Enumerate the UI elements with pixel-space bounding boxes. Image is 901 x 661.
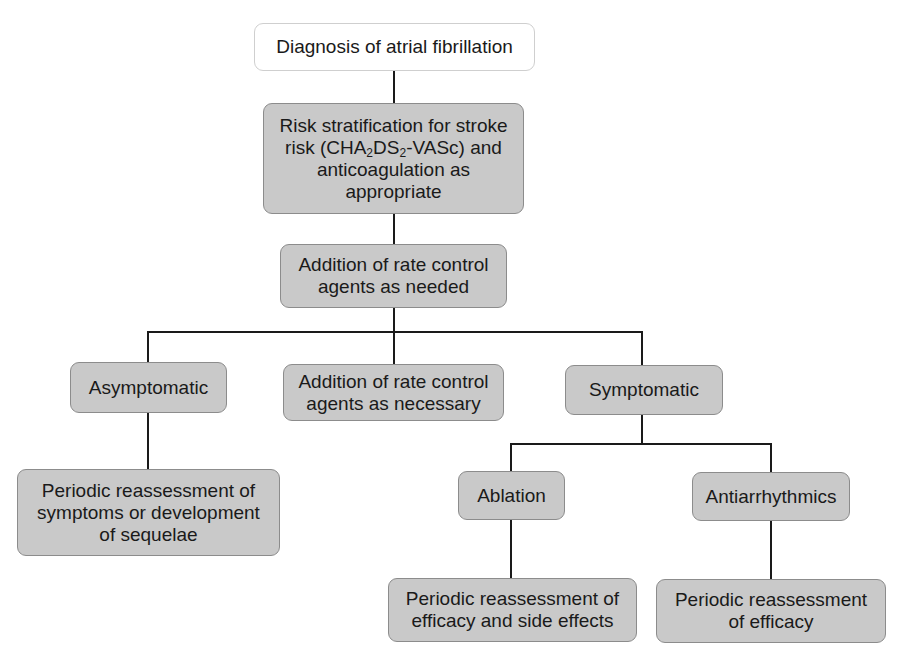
periodic-symptoms-line-2: symptoms or development <box>37 502 260 524</box>
rate-control-line-2: agents as needed <box>298 276 488 298</box>
connector-lines <box>0 0 901 661</box>
node-ablation: Ablation <box>458 471 565 520</box>
risk-line-2-pre: risk (CHA <box>285 137 366 158</box>
node-periodic-symptoms: Periodic reassessment of symptoms or dev… <box>17 469 280 556</box>
risk-line-1: Risk stratification for stroke <box>279 115 507 137</box>
rate-control-line-1: Addition of rate control <box>298 254 488 276</box>
risk-line-4: appropriate <box>279 181 507 203</box>
node-asymptomatic-label: Asymptomatic <box>89 377 208 399</box>
periodic-efficacy-line-1: Periodic reassessment <box>675 589 867 611</box>
node-rate-control: Addition of rate control agents as neede… <box>280 244 507 308</box>
node-antiarrhythmics-label: Antiarrhythmics <box>706 486 837 508</box>
periodic-efficacy-side-line-2: efficacy and side effects <box>406 610 619 632</box>
node-ablation-label: Ablation <box>477 485 546 507</box>
risk-line-2-post: -VASc) and <box>406 137 502 158</box>
node-symptomatic: Symptomatic <box>565 365 723 415</box>
node-asymptomatic: Asymptomatic <box>70 362 227 413</box>
node-diagnosis-label: Diagnosis of atrial fibrillation <box>276 36 513 58</box>
node-periodic-efficacy-side-effects: Periodic reassessment of efficacy and si… <box>388 578 637 642</box>
risk-line-2-mid: DS <box>373 137 399 158</box>
node-periodic-efficacy: Periodic reassessment of efficacy <box>656 579 886 643</box>
node-antiarrhythmics: Antiarrhythmics <box>692 472 850 521</box>
rate-control-necessary-line-1: Addition of rate control <box>298 371 488 393</box>
node-rate-control-necessary: Addition of rate control agents as neces… <box>283 364 504 421</box>
periodic-symptoms-line-1: Periodic reassessment of <box>37 480 260 502</box>
risk-line-3: anticoagulation as <box>279 159 507 181</box>
node-risk-stratification: Risk stratification for stroke risk (CHA… <box>263 103 524 214</box>
periodic-efficacy-side-line-1: Periodic reassessment of <box>406 588 619 610</box>
rate-control-necessary-line-2: agents as necessary <box>298 393 488 415</box>
node-symptomatic-label: Symptomatic <box>589 379 699 401</box>
periodic-efficacy-line-2: of efficacy <box>675 611 867 633</box>
periodic-symptoms-line-3: of sequelae <box>37 524 260 546</box>
risk-line-2: risk (CHA2DS2-VASc) and <box>279 137 507 159</box>
node-diagnosis: Diagnosis of atrial fibrillation <box>254 23 535 71</box>
